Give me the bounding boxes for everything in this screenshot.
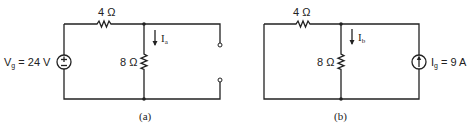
terminal-bottom-a [218, 78, 222, 82]
node-bottom-b [339, 97, 343, 101]
voltage-source-icon [57, 55, 71, 69]
node-top-a [142, 22, 146, 26]
terminal-top-a [218, 43, 222, 47]
resistor-8ohm-b [338, 24, 344, 99]
label-4ohm-b: 4 Ω [293, 6, 310, 18]
wire-left-a [64, 24, 220, 99]
caption-b: (b) [334, 110, 347, 123]
label-ig: Ig = 9 A [431, 56, 467, 70]
current-arrow-icon [350, 29, 355, 45]
label-8ohm-b: 8 Ω [317, 56, 334, 68]
label-8ohm-a: 8 Ω [120, 56, 137, 68]
wire-top-a [64, 21, 220, 43]
label-ib: Ib [358, 31, 366, 45]
node-bottom-a [142, 97, 146, 101]
label-4ohm-a: 4 Ω [98, 6, 115, 18]
circuit-a: 4 Ω 8 Ω Vg = 24 V Ia (a) [4, 6, 222, 123]
circuit-b: 4 Ω 8 Ω Ib Ig = 9 A (b) [264, 6, 467, 123]
node-top-b [339, 22, 343, 26]
current-source-icon [412, 55, 426, 69]
label-ia: Ia [161, 32, 169, 46]
resistor-8ohm-a [141, 24, 147, 99]
current-arrow-icon [153, 30, 158, 46]
circuit-diagram: 4 Ω 8 Ω Vg = 24 V Ia (a) 4 Ω 8 Ω Ib Ig =… [0, 0, 474, 129]
label-vg: Vg = 24 V [4, 56, 51, 70]
caption-a: (a) [139, 110, 152, 123]
